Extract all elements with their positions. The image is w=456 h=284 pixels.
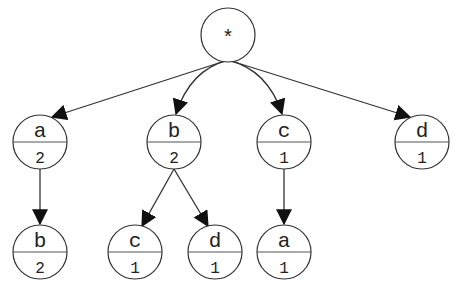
node-count: 2 bbox=[35, 260, 45, 278]
tree-node-c-level2: c 1 bbox=[108, 225, 162, 279]
edge-root-to-a bbox=[52, 60, 228, 117]
node-label: a bbox=[34, 120, 47, 143]
edge-b-to-c bbox=[142, 169, 174, 226]
node-count: 1 bbox=[279, 260, 289, 278]
tree-diagram: * a 2 b 2 c 1 d 1 b 2 c 1 d bbox=[0, 0, 456, 284]
root-label: * bbox=[222, 27, 234, 50]
tree-node-b-level1: b 2 bbox=[147, 115, 201, 169]
node-count: 1 bbox=[417, 150, 427, 168]
node-label: b bbox=[34, 230, 47, 253]
node-label: b bbox=[168, 120, 181, 143]
tree-node-a-level1: a 2 bbox=[13, 115, 67, 169]
edge-root-to-d bbox=[228, 60, 410, 117]
tree-node-d-level1: d 1 bbox=[395, 115, 449, 169]
node-label: c bbox=[278, 120, 291, 143]
root-node: * bbox=[201, 8, 255, 62]
node-label: c bbox=[129, 230, 142, 253]
node-label: a bbox=[278, 230, 291, 253]
tree-node-a-level2: a 1 bbox=[257, 225, 311, 279]
node-label: d bbox=[209, 230, 222, 253]
tree-node-c-level1: c 1 bbox=[257, 115, 311, 169]
node-label: d bbox=[416, 120, 429, 143]
node-count: 1 bbox=[279, 150, 289, 168]
edges bbox=[40, 60, 410, 226]
node-count: 2 bbox=[35, 150, 45, 168]
node-count: 1 bbox=[130, 260, 140, 278]
edge-b-to-d bbox=[174, 169, 208, 226]
node-count: 2 bbox=[169, 150, 179, 168]
tree-node-d-level2: d 1 bbox=[188, 225, 242, 279]
tree-node-b-level2: b 2 bbox=[13, 225, 67, 279]
node-count: 1 bbox=[210, 260, 220, 278]
